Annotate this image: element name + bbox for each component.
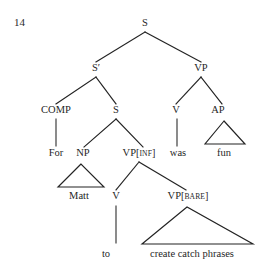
node-root-s: S	[142, 17, 148, 28]
branch-vp-to-v	[176, 77, 201, 104]
branch-s-to-vpinf	[116, 119, 143, 147]
node-labels: S S′ VP COMP S V AP NP VP[INF] V VP[BARE…	[41, 17, 225, 201]
node-v-to: V	[112, 190, 120, 201]
node-vp-bare-bracket-close: ]	[205, 190, 208, 201]
terminal-fun: fun	[217, 147, 232, 158]
node-vp-inf: VP[INF]	[123, 147, 156, 158]
node-vp-bare-category: VP	[168, 190, 182, 201]
triangle-shapes	[58, 121, 253, 244]
terminal-for: For	[49, 147, 64, 158]
branch-vpinf-to-vpbare	[139, 162, 186, 190]
node-vp-inf-bracket-close: ]	[152, 147, 155, 158]
node-vp-bare-feature: BARE	[184, 192, 205, 201]
branch-sbar-to-comp	[56, 77, 96, 104]
node-vp-inf-category: VP	[123, 147, 137, 158]
terminal-to: to	[102, 248, 110, 259]
node-ap: AP	[211, 104, 225, 115]
branch-vp-to-ap	[201, 77, 222, 104]
terminal-matt: Matt	[69, 190, 89, 201]
syntax-tree-figure: 14 S S′ VP COMP S V AP NP VP[I	[0, 0, 263, 272]
branch-s-to-np	[84, 119, 116, 147]
node-vp-inf-feature: INF	[139, 149, 152, 158]
branch-sbar-to-s	[96, 77, 116, 104]
branch-s-to-vp	[145, 32, 201, 62]
ap-triangle	[205, 121, 245, 144]
terminal-was: was	[170, 147, 186, 158]
branch-s-to-sbar	[96, 32, 145, 62]
node-vp-top: VP	[194, 62, 208, 73]
branch-vpinf-to-v	[116, 162, 139, 190]
np-triangle	[58, 164, 104, 187]
node-v-was: V	[172, 104, 180, 115]
vpbare-triangle	[142, 207, 253, 244]
node-comp: COMP	[41, 104, 71, 115]
terminal-create-catch-phrases: create catch phrases	[150, 248, 234, 259]
node-s-embedded: S	[113, 104, 119, 115]
node-np: NP	[76, 147, 90, 158]
node-s-bar: S′	[92, 62, 100, 73]
node-vp-bare: VP[BARE]	[168, 190, 209, 201]
example-number-label: 14	[14, 16, 26, 28]
